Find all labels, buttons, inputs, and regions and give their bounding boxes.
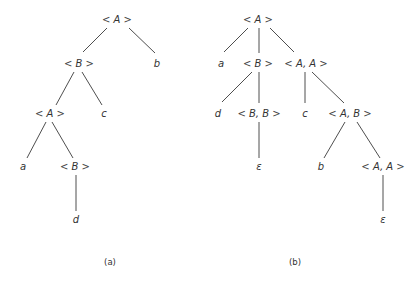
terminal-node: ε — [380, 214, 386, 225]
tree-edge — [56, 72, 74, 105]
tree-edge — [312, 72, 344, 103]
tree-a: < A >< B >b< A >ca< B >d — [20, 14, 160, 225]
tree-edge — [324, 122, 345, 158]
caption-b: (b) — [289, 257, 301, 267]
nonterminal-node: < B > — [243, 58, 273, 69]
terminal-node: a — [20, 161, 26, 172]
tree-edge — [27, 122, 46, 158]
tree-edge — [83, 28, 107, 52]
terminal-node: ε — [256, 161, 262, 172]
nonterminal-node: < B > — [64, 58, 94, 69]
tree-edge — [52, 122, 73, 158]
terminal-node: a — [218, 58, 224, 69]
tree-b: < A >a< B >< A, A >d< B, B >c< A, B >εb<… — [215, 14, 405, 225]
terminal-node: d — [73, 214, 80, 225]
nonterminal-node: < B, B > — [237, 108, 280, 119]
terminal-node: c — [302, 108, 308, 119]
tree-edge — [82, 72, 102, 105]
terminal-node: b — [154, 58, 160, 69]
nonterminal-node: < A > — [35, 108, 65, 119]
tree-edge — [129, 28, 155, 53]
tree-edge — [270, 28, 294, 52]
tree-edge — [222, 72, 252, 102]
nonterminal-node: < B > — [60, 161, 90, 172]
caption-a: (a) — [104, 257, 116, 267]
nonterminal-node: < A > — [102, 14, 132, 25]
tree-edge — [224, 28, 248, 52]
terminal-node: d — [215, 108, 222, 119]
terminal-node: b — [318, 161, 324, 172]
nonterminal-node: < A, A > — [284, 58, 327, 69]
parse-tree-diagram: < A >< B >b< A >ca< B >d < A >a< B >< A,… — [0, 0, 420, 281]
terminal-node: c — [101, 108, 107, 119]
nonterminal-node: < A, B > — [328, 108, 371, 119]
tree-edge — [357, 122, 380, 158]
nonterminal-node: < A, A > — [361, 161, 404, 172]
nonterminal-node: < A > — [243, 14, 273, 25]
